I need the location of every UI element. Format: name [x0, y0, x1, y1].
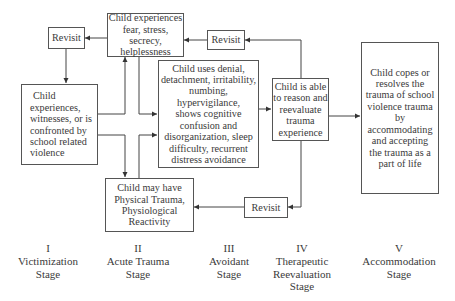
acute-trauma-box: Child experiences fear, stress, secrecy,… [107, 13, 184, 57]
box-text: distress avoidance [159, 154, 258, 165]
box-text: detachment, irritability, [159, 74, 258, 85]
box-text: difficulty, recurrent [159, 143, 258, 154]
box-text: reevaluate [273, 104, 327, 115]
stage-text: Therapeutic [257, 255, 347, 268]
box-text: part of life [366, 158, 434, 169]
revisit-label: Revisit [252, 202, 281, 213]
victimization-box: Child experiences, witnesses, or is conf… [21, 84, 98, 165]
box-text: Physical Trauma, [114, 194, 185, 205]
box-text: Physiological [114, 205, 185, 216]
box-text: trauma [273, 115, 327, 126]
box-text: confusion and [159, 120, 258, 131]
box-text: to reason and [273, 92, 327, 103]
box-text: Child [30, 90, 92, 101]
box-text: trauma of school [366, 89, 434, 100]
stage-label-2: II Acute Trauma Stage [93, 242, 183, 280]
stage-numeral: IV [257, 242, 347, 255]
revisit-label: Revisit [52, 32, 81, 43]
stage-label-1: I Victimization Stage [3, 242, 93, 280]
stage-numeral: II [93, 242, 183, 255]
box-text: violence [30, 147, 92, 158]
stage-text: Accommodation [354, 255, 444, 268]
box-text: disorganization, sleep [159, 131, 258, 142]
box-text: the trauma as a [366, 147, 434, 158]
stage-text: Reevaluation [257, 268, 347, 281]
box-text: Child is able [273, 81, 327, 92]
box-text: numbing, hypervigilance, [159, 85, 258, 108]
reevaluation-box: Child is able to reason and reevaluate t… [272, 78, 329, 141]
revisit-box-top-left: Revisit [48, 27, 85, 49]
stage-label-4: IV Therapeutic Reevaluation Stage [257, 242, 347, 293]
stage-numeral: I [3, 242, 93, 255]
box-text: Child copes or [366, 67, 434, 78]
box-text: fear, stress, secrecy, [108, 24, 183, 47]
revisit-box-bottom: Revisit [244, 197, 288, 218]
stage-text: Stage [3, 268, 93, 281]
stage-text: Stage [257, 280, 347, 293]
avoidant-box: Child uses denial, detachment, irritabil… [158, 60, 259, 168]
box-text: Reactivity [114, 216, 185, 227]
stage-numeral: V [354, 242, 444, 255]
box-text: Child may have [114, 182, 185, 193]
stage-text: Stage [93, 268, 183, 281]
stage-text: Acute Trauma [93, 255, 183, 268]
box-text: confronted by [30, 125, 92, 136]
box-text: school related [30, 136, 92, 147]
box-text: experience [273, 127, 327, 138]
box-text: Child uses denial, [159, 63, 258, 74]
revisit-box-top-right: Revisit [207, 30, 245, 50]
physical-trauma-box: Child may have Physical Trauma, Physiolo… [105, 178, 194, 232]
box-text: experiences, [30, 102, 92, 113]
revisit-label: Revisit [212, 34, 241, 45]
box-text: accommodating [366, 124, 434, 135]
box-text: violence trauma [366, 101, 434, 112]
box-text: helplessness [108, 46, 183, 57]
stage-text: Victimization [3, 255, 93, 268]
stage-label-5: V Accommodation Stage [354, 242, 444, 280]
box-text: resolves the [366, 78, 434, 89]
box-text: and accepting [366, 135, 434, 146]
box-text: witnesses, or is [30, 113, 92, 124]
box-text: Child experiences [108, 12, 183, 23]
box-text: by [366, 112, 434, 123]
stage-text: Stage [354, 268, 444, 281]
accommodation-box: Child copes or resolves the trauma of sc… [361, 42, 439, 194]
box-text: shows cognitive [159, 108, 258, 119]
